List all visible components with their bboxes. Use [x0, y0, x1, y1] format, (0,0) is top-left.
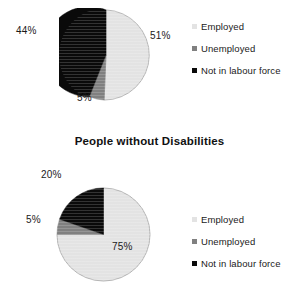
legend-label-not-in-labour-force: Not in labour force: [201, 65, 281, 76]
legend-label-not-in-labour-force: Not in labour force: [201, 258, 281, 269]
dual-pie-chart-figure: 44% 51% 5% Employed Unemployed Not in la…: [0, 0, 299, 282]
legend-label-unemployed: Unemployed: [201, 236, 255, 247]
legend-swatch-not-in-labour-force-icon: [192, 68, 197, 73]
pie-top-slice-employed: [104, 10, 149, 100]
pie-top-label-employed: 51%: [150, 30, 171, 41]
legend-swatch-unemployed-icon: [192, 46, 197, 51]
chart-people-without-disabilities: People without Disabilities 20% 5% 75% E…: [0, 133, 299, 282]
legend-item-not-in-labour-force: Not in labour force: [192, 62, 299, 78]
legend-label-employed: Employed: [201, 214, 244, 225]
legend-label-employed: Employed: [201, 21, 244, 32]
pie-top: [59, 8, 153, 102]
legend-top: Employed Unemployed Not in labour force: [192, 18, 299, 84]
pie-top-svg: [59, 8, 153, 102]
legend-label-unemployed: Unemployed: [201, 43, 255, 54]
chart-people-with-disabilities: 44% 51% 5% Employed Unemployed Not in la…: [0, 0, 299, 118]
pie-bottom-label-unemployed: 5%: [26, 214, 41, 225]
legend-swatch-employed-icon: [192, 217, 197, 222]
legend-item-not-in-labour-force: Not in labour force: [192, 255, 299, 271]
legend-item-employed: Employed: [192, 18, 299, 34]
pie-bottom: [55, 186, 152, 282]
legend-item-unemployed: Unemployed: [192, 40, 299, 56]
legend-swatch-not-in-labour-force-icon: [192, 261, 197, 266]
pie-top-label-not-in-labour-force: 44%: [16, 25, 37, 36]
pie-bottom-label-not-in-labour-force: 20%: [41, 169, 62, 180]
pie-bottom-label-employed: 75%: [112, 241, 133, 252]
legend-item-employed: Employed: [192, 211, 299, 227]
chart-bottom-title: People without Disabilities: [0, 135, 299, 147]
pie-bottom-svg: [55, 186, 152, 282]
pie-top-label-unemployed: 5%: [77, 92, 92, 103]
legend-item-unemployed: Unemployed: [192, 233, 299, 249]
legend-swatch-unemployed-icon: [192, 239, 197, 244]
legend-swatch-employed-icon: [192, 24, 197, 29]
legend-bottom: Employed Unemployed Not in labour force: [192, 211, 299, 277]
